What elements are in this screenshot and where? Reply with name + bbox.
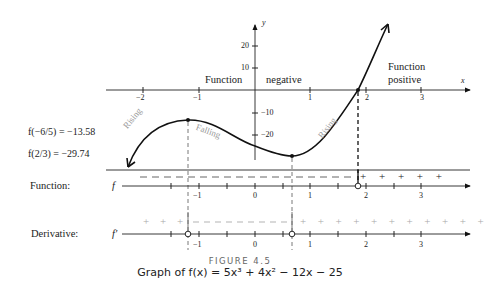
f-line-tick-label: 2 <box>364 191 368 200</box>
f-line-tick-label: 0 <box>253 191 257 200</box>
root-open-circle <box>355 183 361 189</box>
x-tick-label: 1 <box>308 93 312 102</box>
x-axis <box>106 87 470 93</box>
fprime-line-tick-label: 3 <box>419 240 423 249</box>
local-min-point <box>290 154 294 158</box>
function-positive-label-2: positive <box>388 74 421 85</box>
f-line-tick-label: −1 <box>193 191 202 200</box>
x-axis-label: x <box>461 76 465 85</box>
fprime-symbol: f′ <box>112 228 117 239</box>
y-tick-label: 20 <box>241 41 249 50</box>
root-point <box>356 88 360 92</box>
y-tick-label: −10 <box>261 108 274 117</box>
fprime-line-tick-label: 1 <box>308 240 312 249</box>
x-tick-label: 3 <box>420 93 424 102</box>
f-line-tick-label: 1 <box>308 191 312 200</box>
x-tick-label: −2 <box>136 93 145 102</box>
fprime-line-tick-label: 2 <box>364 240 368 249</box>
fprime-line-tick-label: −1 <box>193 240 202 249</box>
derivative-positive-signs-right: + + + + + + + + + + + <box>300 215 488 227</box>
max-value-label: f(−6/5) = −13.58 <box>28 126 95 137</box>
max-open-circle <box>185 231 191 237</box>
function-negative-label-1: Function <box>205 74 242 85</box>
f-symbol: f <box>112 180 115 191</box>
fprime-line-tick-label: 0 <box>253 240 257 249</box>
x-tick-label: −1 <box>193 93 202 102</box>
function-positive-label-1: Function <box>388 61 425 72</box>
y-axis <box>252 25 258 160</box>
f-line-tick-label: 3 <box>419 191 423 200</box>
function-curve <box>128 24 388 167</box>
local-max-point <box>186 118 190 122</box>
y-tick-label: −20 <box>261 130 274 139</box>
min-value-label: f(2/3) = −29.74 <box>28 148 90 159</box>
y-axis-label: y <box>262 18 266 27</box>
y-tick-label: 10 <box>241 63 249 72</box>
function-positive-signs: + + + + + <box>360 170 447 182</box>
function-negative-label-2: negative <box>266 74 302 85</box>
figure-number: FIGURE 4.5 <box>0 256 480 266</box>
function-row-label: Function: <box>30 180 70 191</box>
min-open-circle <box>289 231 295 237</box>
derivative-row-label: Derivative: <box>31 228 78 239</box>
figure-title: Graph of f(x) = 5x³ + 4x² − 12x − 25 <box>0 266 480 279</box>
derivative-positive-signs-left: + + + <box>143 215 187 227</box>
x-tick-label: 2 <box>365 93 369 102</box>
